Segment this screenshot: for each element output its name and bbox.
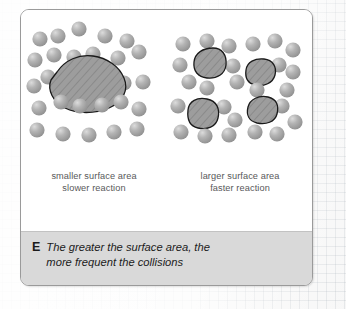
solid-lump-1 bbox=[194, 48, 226, 78]
panel-label-line-2: slower reaction bbox=[21, 182, 167, 194]
panel-larger-surface-area: larger surface area faster reaction bbox=[167, 10, 313, 233]
panel-label-smaller-surface-area: smaller surface area slower reaction bbox=[21, 170, 167, 194]
solid-lump-2 bbox=[246, 59, 276, 86]
left-diagram-svg bbox=[21, 10, 167, 170]
panel-smaller-surface-area: smaller surface area slower reaction bbox=[21, 10, 167, 233]
figure-caption-line-2: more frequent the collisions bbox=[46, 255, 302, 270]
figure-key-letter: E bbox=[32, 240, 46, 254]
right-diagram-svg bbox=[167, 10, 313, 170]
panel-label-line-1: smaller surface area bbox=[21, 170, 167, 182]
panel-label-line-2: faster reaction bbox=[167, 182, 313, 194]
particle-field-right bbox=[167, 10, 313, 170]
figure-caption-bar: E The greater the surface area, the more… bbox=[21, 231, 312, 285]
solid-lump-3 bbox=[188, 98, 219, 128]
solid-lump-4 bbox=[247, 96, 277, 123]
figure-card: smaller surface area slower reaction bbox=[20, 9, 313, 286]
particle-group-back-right bbox=[172, 33, 300, 79]
figure-caption-text: The greater the surface area, the more f… bbox=[46, 240, 302, 269]
panel-label-line-1: larger surface area bbox=[167, 170, 313, 182]
illustration-area: smaller surface area slower reaction bbox=[21, 10, 312, 233]
figure-screenshot: smaller surface area slower reaction bbox=[0, 0, 346, 309]
figure-caption-line-1: The greater the surface area, the bbox=[46, 240, 302, 255]
particle-field-left bbox=[21, 10, 167, 170]
panel-label-larger-surface-area: larger surface area faster reaction bbox=[167, 170, 313, 194]
